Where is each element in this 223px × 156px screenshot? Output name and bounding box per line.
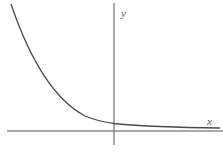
x-axis-label: x	[206, 115, 212, 127]
y-axis-label: y	[120, 7, 126, 19]
exponential-decay-graph: y x	[0, 0, 223, 156]
exponential-curve	[11, 4, 220, 128]
